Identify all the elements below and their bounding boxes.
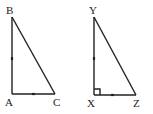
label-x: X: [87, 97, 95, 109]
triangle-diagram: B A C Y X Z: [0, 0, 153, 114]
right-angle-marker: [94, 89, 100, 95]
triangle-xyz: Y X Z: [87, 4, 140, 109]
label-b: B: [6, 4, 13, 16]
label-z: Z: [133, 97, 140, 109]
triangle-abc: B A C: [5, 4, 60, 108]
label-y: Y: [89, 4, 97, 16]
edge-bc: [12, 17, 55, 94]
label-a: A: [5, 96, 13, 108]
label-c: C: [53, 96, 60, 108]
edge-yz: [94, 17, 136, 95]
